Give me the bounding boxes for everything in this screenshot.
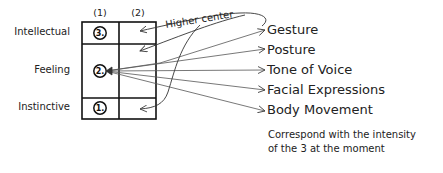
arrow-to-gesture <box>106 30 265 71</box>
note-line-2: of the 3 at the moment <box>268 142 385 156</box>
feeling-number: 2. <box>96 67 105 76</box>
note-line-1: Correspond with the intensity <box>268 128 416 142</box>
higher-center-to-instinctive-arrow <box>140 25 200 109</box>
arrow-to-body-movement <box>106 71 265 111</box>
centers-diagram: 3. 2. 1. Higher center (1) (2) Intellect… <box>0 0 443 173</box>
higher-center-label: Higher center <box>165 8 235 30</box>
arrow-to-tone-of-voice <box>106 70 265 71</box>
instinctive-number: 1. <box>96 104 105 113</box>
fan-origin-icon <box>106 67 112 75</box>
intellectual-number: 3. <box>96 29 105 38</box>
output-gesture: Gesture <box>267 23 318 36</box>
output-posture: Posture <box>267 43 316 56</box>
arrow-to-posture <box>106 49 265 71</box>
higher-center-curve <box>140 13 266 109</box>
column-header-2: (2) <box>131 7 144 18</box>
output-tone-of-voice: Tone of Voice <box>267 63 352 76</box>
center-number-circles: 3. 2. 1. <box>94 27 106 114</box>
feeling-output-arrows <box>106 30 265 111</box>
row-label-instinctive: Instinctive <box>18 101 70 112</box>
arrow-to-facial-expressions <box>106 71 265 90</box>
column-header-1: (1) <box>93 7 106 18</box>
output-facial-expressions: Facial Expressions <box>267 83 385 96</box>
row-label-feeling: Feeling <box>34 64 70 75</box>
row-label-intellectual: Intellectual <box>14 26 70 37</box>
output-body-movement: Body Movement <box>267 103 373 116</box>
